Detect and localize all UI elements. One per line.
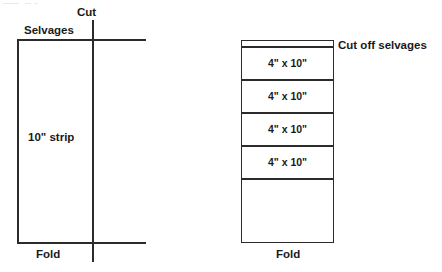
piece-label: 4" x 10"	[241, 156, 334, 168]
fold-edge-line	[17, 242, 146, 244]
strip-width-label: 10" strip	[28, 131, 74, 144]
diagram-canvas: Cut Selvages 10" strip Fold Cut off selv…	[0, 0, 442, 272]
scan-artifact	[3, 3, 19, 4]
piece-label: 4" x 10"	[241, 90, 334, 102]
piece-label: 4" x 10"	[241, 123, 334, 135]
piece-label: 4" x 10"	[241, 57, 334, 69]
scan-artifact	[34, 3, 38, 4]
cut-line	[92, 20, 94, 262]
strip-outline	[241, 40, 334, 243]
selvages-label: Selvages	[24, 24, 74, 37]
selvage-band-divider	[241, 46, 334, 48]
fabric-left-edge	[17, 39, 19, 244]
piece-divider	[241, 112, 334, 114]
cut-label: Cut	[77, 6, 96, 19]
piece-divider	[241, 79, 334, 81]
fold-label-left: Fold	[36, 248, 60, 261]
piece-divider	[241, 145, 334, 147]
selvage-edge-line	[17, 39, 146, 41]
fold-label-right: Fold	[276, 248, 300, 261]
scan-artifact	[25, 3, 31, 4]
cut-off-selvages-label: Cut off selvages	[338, 39, 427, 52]
piece-divider	[241, 178, 334, 180]
